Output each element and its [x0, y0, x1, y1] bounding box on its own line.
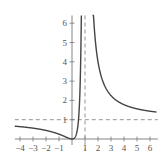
curve-right-branch — [93, 15, 157, 112]
asymptote-lines — [15, 15, 158, 150]
y-tick-label: 2 — [63, 95, 68, 105]
y-tick-label: 6 — [63, 18, 68, 28]
curve-left-branch — [15, 15, 82, 139]
x-tick-label: −2 — [41, 143, 51, 153]
x-tick-label: −3 — [28, 143, 38, 153]
y-tick-label: 5 — [63, 38, 68, 48]
x-tick-label: 5 — [135, 143, 140, 153]
axes — [15, 15, 158, 145]
x-tick-label: −4 — [15, 143, 25, 153]
x-tick-label: 4 — [122, 143, 127, 153]
x-tick-label: −1 — [54, 143, 64, 153]
x-tick-label: 1 — [83, 143, 88, 153]
function-plot: −4−3−2−1123456123456 — [0, 0, 165, 166]
x-tick-label: 6 — [148, 143, 153, 153]
y-tick-label: 1 — [63, 115, 68, 125]
y-tick-label: 3 — [63, 76, 68, 86]
y-tick-label: 4 — [63, 57, 68, 67]
x-tick-label: 3 — [109, 143, 114, 153]
x-tick-label: 2 — [96, 143, 101, 153]
axis-ticks: −4−3−2−1123456123456 — [15, 18, 153, 153]
function-curves — [15, 15, 157, 139]
